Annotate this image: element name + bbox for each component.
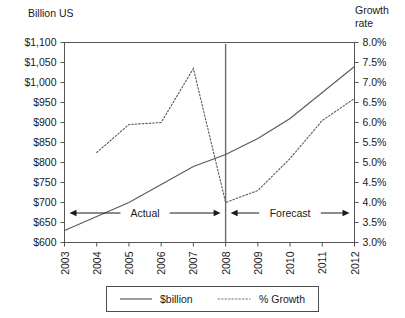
left-axis-tick-label: $800: [33, 156, 57, 168]
left-axis-tick-label: $950: [33, 96, 57, 108]
range-annotation-label: Actual: [130, 207, 159, 219]
left-axis-tick-label: $900: [33, 116, 57, 128]
right-axis-tick-label: 7.0%: [363, 76, 387, 88]
x-axis-tick-label: 2006: [155, 251, 167, 275]
left-axis-tick-label: $850: [33, 136, 57, 148]
right-axis-tick-label: 5.5%: [363, 136, 387, 148]
left-axis-tick-label: $750: [33, 176, 57, 188]
right-axis-title-line1: Growth: [355, 4, 389, 16]
x-axis-tick-label: 2007: [187, 251, 199, 275]
range-annotations: ActualForecast: [70, 207, 350, 219]
x-axis-tick-label: 2004: [91, 251, 103, 275]
growth-and-billions-line-chart: Billion US Growth rate $600$650$700$750$…: [0, 0, 405, 318]
legend-label-billion: $billion: [160, 293, 193, 305]
right-axis-tick-label: 8.0%: [363, 36, 387, 48]
left-axis-title: Billion US: [28, 7, 74, 19]
x-axis-tick-label: 2008: [220, 251, 232, 275]
x-axis-ticks: 2003200420052006200720082009201020112012: [59, 243, 361, 275]
left-axis-tick-label: $700: [33, 196, 57, 208]
right-axis-tick-label: 4.0%: [363, 196, 387, 208]
left-axis-tick-label: $1,000: [24, 76, 56, 88]
x-axis-tick-label: 2005: [123, 251, 135, 275]
left-axis-tick-label: $650: [33, 216, 57, 228]
right-axis-tick-label: 6.0%: [363, 116, 387, 128]
x-axis-tick-label: 2010: [284, 251, 296, 275]
range-annotation-label: Forecast: [270, 207, 311, 219]
right-axis-title-line2: rate: [355, 17, 373, 29]
right-axis-tick-label: 4.5%: [363, 176, 387, 188]
left-axis-tick-label: $600: [33, 236, 57, 248]
right-axis-tick-label: 3.0%: [363, 236, 387, 248]
legend-label-growth: % Growth: [259, 293, 305, 305]
left-axis-ticks: $600$650$700$750$800$850$900$950$1,000$1…: [24, 36, 64, 248]
left-axis-tick-label: $1,050: [24, 56, 56, 68]
x-axis-tick-label: 2003: [59, 251, 71, 275]
right-axis-tick-label: 5.0%: [363, 156, 387, 168]
left-axis-tick-label: $1,100: [24, 36, 56, 48]
x-axis-tick-label: 2011: [316, 251, 328, 274]
right-axis-tick-label: 6.5%: [363, 96, 387, 108]
right-axis-tick-label: 7.5%: [363, 56, 387, 68]
x-axis-tick-label: 2009: [252, 251, 264, 275]
chart-container: Billion US Growth rate $600$650$700$750$…: [0, 0, 405, 318]
right-axis-tick-label: 3.5%: [363, 216, 387, 228]
right-axis-ticks: 3.0%3.5%4.0%4.5%5.0%5.5%6.0%6.5%7.0%7.5%…: [355, 36, 387, 248]
x-axis-tick-label: 2012: [349, 251, 361, 275]
series-billion-line: [65, 67, 355, 231]
